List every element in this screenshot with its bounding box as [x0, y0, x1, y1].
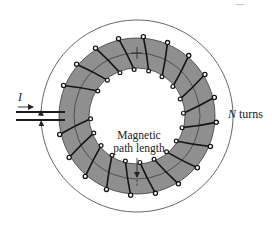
magnetic-path-label-line1: Magnetic [104, 129, 174, 142]
scan-artifact [236, 4, 244, 5]
turns-word: turns [236, 107, 263, 121]
turns-variable: N [228, 107, 236, 121]
toroid-diagram: I N turns Magnetic path length [0, 0, 272, 230]
turns-label: N turns [228, 108, 263, 120]
magnetic-path-label: Magnetic path length [104, 129, 174, 155]
current-label: I [18, 91, 22, 103]
magnetic-path-label-line2: path length [104, 142, 174, 155]
current-leads [16, 107, 65, 120]
